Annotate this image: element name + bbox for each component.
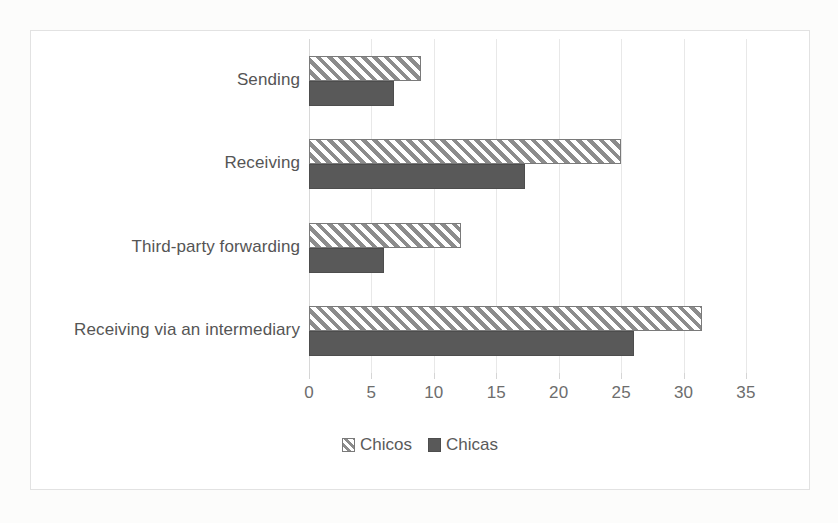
- category-label: Third-party forwarding: [132, 237, 300, 257]
- legend-label: Chicas: [446, 435, 498, 455]
- filled-square-icon: [428, 438, 441, 452]
- bar-chicos: [309, 223, 461, 248]
- tick-mark: [496, 373, 497, 379]
- gridline: [746, 39, 747, 373]
- legend-item[interactable]: Chicos: [342, 435, 412, 455]
- tick-mark: [684, 373, 685, 379]
- hatched-square-icon: [342, 438, 355, 452]
- bar-group: Receiving via an intermediary: [309, 290, 746, 374]
- x-tick-label: 20: [549, 383, 568, 403]
- bar-chicos: [309, 306, 702, 331]
- category-label: Receiving via an intermediary: [74, 320, 300, 340]
- bar-group: Receiving: [309, 123, 746, 207]
- chart-frame: 05101520253035 SendingReceivingThird-par…: [30, 30, 810, 490]
- legend-label: Chicos: [360, 435, 412, 455]
- bar-group: Sending: [309, 39, 746, 123]
- bar-chicas: [309, 164, 525, 189]
- page-background: 05101520253035 SendingReceivingThird-par…: [0, 0, 838, 523]
- plot-area: 05101520253035 SendingReceivingThird-par…: [309, 39, 746, 373]
- tick-mark: [371, 373, 372, 379]
- tick-mark: [309, 373, 310, 379]
- bar-group: Third-party forwarding: [309, 206, 746, 290]
- bar-chicas: [309, 331, 634, 356]
- category-label: Sending: [237, 70, 300, 90]
- x-tick-label: 30: [674, 383, 693, 403]
- x-tick-label: 0: [304, 383, 314, 403]
- bar-chicas: [309, 81, 394, 106]
- x-tick-label: 15: [487, 383, 506, 403]
- tick-mark: [621, 373, 622, 379]
- bar-chicos: [309, 139, 621, 164]
- tick-mark: [434, 373, 435, 379]
- legend-item[interactable]: Chicas: [428, 435, 498, 455]
- bar-chicas: [309, 248, 384, 273]
- x-tick-label: 25: [611, 383, 630, 403]
- bar-chicos: [309, 56, 421, 81]
- tick-mark: [559, 373, 560, 379]
- x-tick-label: 35: [736, 383, 755, 403]
- chart-legend: ChicosChicas: [31, 435, 809, 455]
- x-tick-label: 5: [367, 383, 377, 403]
- x-tick-label: 10: [424, 383, 443, 403]
- category-label: Receiving: [224, 153, 300, 173]
- tick-mark: [746, 373, 747, 379]
